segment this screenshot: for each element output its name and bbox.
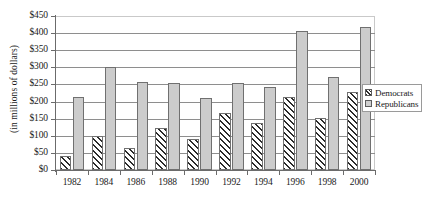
x-tick-mark: [247, 171, 248, 175]
bar-republicans: [296, 31, 308, 170]
bar-democrats: [315, 118, 327, 170]
x-tick-mark: [152, 171, 153, 175]
x-tick-mark: [56, 171, 57, 175]
bar-republicans: [264, 87, 276, 170]
legend-swatch-republicans-icon: [365, 100, 372, 107]
bar-republicans: [328, 77, 340, 170]
legend-swatch-democrats-icon: [365, 89, 372, 96]
bar-republicans: [232, 83, 244, 170]
bar-republicans: [105, 67, 117, 170]
x-tick-mark: [88, 171, 89, 175]
y-tick-label: $50: [0, 147, 48, 157]
chart-legend: Democrats Republicans: [362, 84, 422, 112]
y-tick-label: $0: [0, 164, 48, 174]
bar-republicans: [200, 98, 212, 170]
y-tick-label: $150: [0, 113, 48, 123]
x-tick-mark: [343, 171, 344, 175]
y-tick-label: $400: [0, 27, 48, 37]
x-tick-mark: [184, 171, 185, 175]
y-tick-label: $100: [0, 130, 48, 140]
y-tick-label: $450: [0, 10, 48, 20]
y-tick-label: $200: [0, 96, 48, 106]
x-tick-mark: [216, 171, 217, 175]
bars-layer: [56, 16, 375, 170]
bar-chart: (in millions of dollars) $0$50$100$150$2…: [0, 0, 428, 211]
bar-democrats: [251, 123, 263, 170]
legend-label-democrats: Democrats: [375, 88, 413, 98]
x-tick-mark: [311, 171, 312, 175]
bar-democrats: [92, 136, 104, 170]
bar-republicans: [168, 83, 180, 170]
x-tick-mark: [279, 171, 280, 175]
x-tick-label: 2000: [339, 177, 379, 187]
legend-item-republicans: Republicans: [365, 98, 418, 109]
bar-democrats: [60, 156, 72, 170]
legend-label-republicans: Republicans: [375, 99, 418, 109]
bar-democrats: [155, 128, 167, 170]
x-tick-mark: [120, 171, 121, 175]
x-tick-mark: [375, 171, 376, 175]
bar-democrats: [187, 139, 199, 170]
bar-democrats: [124, 148, 136, 170]
bar-republicans: [137, 82, 149, 170]
bar-democrats: [283, 97, 295, 170]
y-tick-label: $250: [0, 78, 48, 88]
bar-democrats: [347, 92, 359, 170]
bar-democrats: [219, 113, 231, 170]
legend-item-democrats: Democrats: [365, 87, 418, 98]
y-tick-label: $300: [0, 61, 48, 71]
y-tick-label: $350: [0, 44, 48, 54]
bar-republicans: [73, 97, 85, 170]
